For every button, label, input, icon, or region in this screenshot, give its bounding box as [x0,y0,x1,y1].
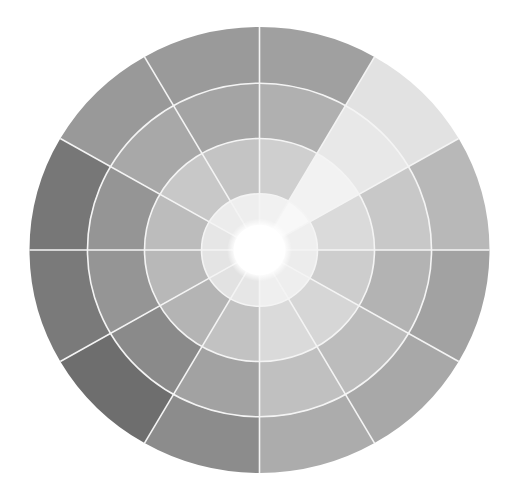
color-wheel-diagram [0,0,515,495]
color-wheel [0,0,515,495]
wheel-center [227,219,292,282]
